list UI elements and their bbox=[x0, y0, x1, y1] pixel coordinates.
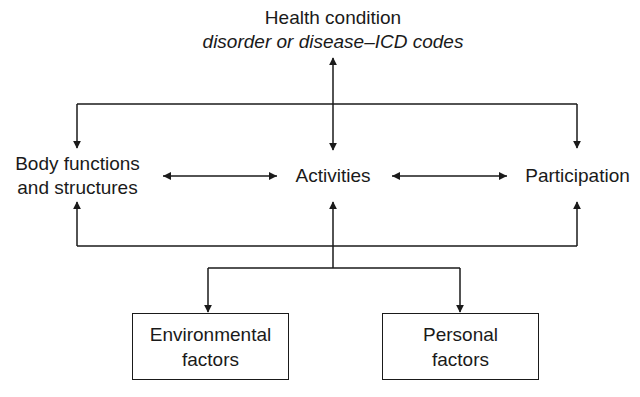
environmental-line1: Environmental bbox=[150, 322, 271, 347]
body-functions-line1: Body functions bbox=[0, 152, 155, 176]
node-participation: Participation bbox=[515, 164, 640, 188]
health-condition-subtitle: disorder or disease–ICD codes bbox=[183, 30, 483, 54]
personal-line2: factors bbox=[432, 347, 489, 372]
environmental-line2: factors bbox=[182, 347, 239, 372]
health-condition-title: Health condition bbox=[233, 6, 433, 30]
node-environmental-factors: Environmental factors bbox=[132, 313, 289, 380]
body-functions-line2: and structures bbox=[0, 176, 155, 200]
node-body-functions: Body functions and structures bbox=[0, 152, 155, 200]
node-activities: Activities bbox=[283, 164, 383, 188]
personal-line1: Personal bbox=[423, 322, 498, 347]
node-personal-factors: Personal factors bbox=[382, 313, 539, 380]
